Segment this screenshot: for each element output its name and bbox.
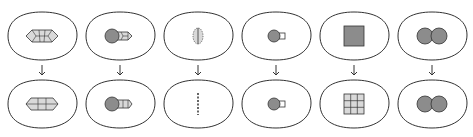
cell-top <box>398 12 467 60</box>
column-6 <box>398 12 467 128</box>
cell-top <box>320 12 389 60</box>
solid-square <box>344 26 364 46</box>
cell-bottom <box>320 80 389 128</box>
cell-bottom <box>398 80 467 128</box>
column-1 <box>8 12 77 128</box>
column-4 <box>242 12 311 128</box>
cell-transformation-diagram <box>0 0 473 137</box>
column-3 <box>164 12 233 128</box>
rounded-segmented-body <box>26 98 58 110</box>
down-arrow-icon <box>351 65 357 75</box>
cell-top <box>8 12 77 60</box>
cell-bottom <box>164 80 233 128</box>
cell-top <box>242 12 311 60</box>
column-2 <box>86 12 155 128</box>
cell-top <box>164 12 233 60</box>
down-arrow-icon <box>429 65 435 75</box>
column-5 <box>320 12 389 128</box>
cell-bottom <box>242 80 311 128</box>
cell-bottom <box>86 80 155 128</box>
dotted-oval-split <box>193 28 203 44</box>
down-arrow-icon <box>39 65 45 75</box>
3x3-grid-square <box>344 94 364 114</box>
hexagonal-segmented-body <box>26 30 58 42</box>
cell-top <box>86 12 155 60</box>
down-arrow-icon <box>273 65 279 75</box>
down-arrow-icon <box>117 65 123 75</box>
down-arrow-icon <box>195 65 201 75</box>
cell-bottom <box>8 80 77 128</box>
